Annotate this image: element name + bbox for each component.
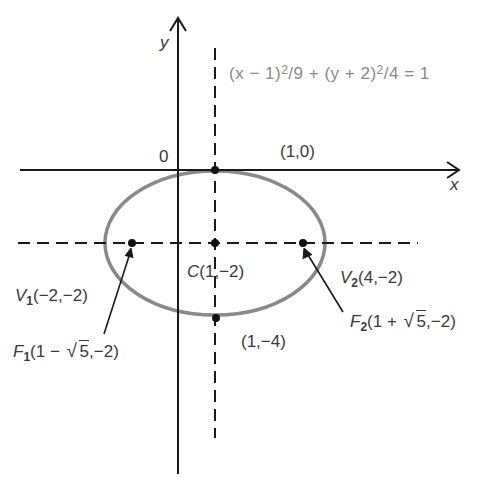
- point-bottom-vertex: [212, 314, 220, 322]
- v2-subscript: 2: [351, 276, 358, 290]
- point-top-vertex: [211, 166, 219, 174]
- sqrt-icon: √5: [67, 343, 89, 360]
- f2-radicand: 5: [416, 310, 426, 331]
- center-coords: (1,−2): [199, 262, 244, 281]
- center-prefix: C: [187, 262, 199, 281]
- equation-part-1: (x − 1): [229, 64, 281, 83]
- y-axis-label: y: [160, 34, 169, 51]
- label-focus-1: F1(1 − √5,−2): [13, 343, 119, 360]
- label-focus-2: F2(1 + √5,−2): [350, 313, 456, 330]
- f2-pre: (1 +: [367, 312, 402, 331]
- leader-arrow-f2-icon: [303, 248, 312, 259]
- label-top-vertex: (1,0): [280, 143, 315, 160]
- equation-exponent-1: 2: [281, 63, 288, 77]
- f2-prefix: F: [350, 312, 360, 331]
- x-axis-label: x: [450, 176, 459, 193]
- f1-prefix: F: [13, 342, 23, 361]
- label-bottom-vertex: (1,−4): [241, 333, 286, 350]
- sqrt-icon: √5: [404, 313, 426, 330]
- leader-arrow-f1-icon: [125, 248, 133, 258]
- origin-label: 0: [159, 148, 168, 165]
- equation-part-2: /9 + (y + 2): [288, 64, 376, 83]
- equation-exponent-2: 2: [377, 63, 384, 77]
- point-focus-1: [128, 239, 136, 247]
- f1-pre: (1 −: [30, 342, 65, 361]
- f1-subscript: 1: [23, 350, 30, 364]
- ellipse-diagram: y x 0 (x − 1)2/9 + (y + 2)2/4 = 1 (1,0) …: [0, 0, 502, 484]
- f1-post: ,−2): [89, 342, 119, 361]
- equation-part-3: /4 = 1: [384, 64, 430, 83]
- label-center: C(1,−2): [187, 263, 244, 280]
- v1-prefix: V: [15, 286, 26, 305]
- v2-coords: (4,−2): [358, 268, 403, 287]
- v2-prefix: V: [340, 268, 351, 287]
- f1-radicand: 5: [79, 340, 89, 361]
- v1-coords: (−2,−2): [33, 286, 88, 305]
- point-focus-2: [299, 239, 307, 247]
- label-vertex-1: V1(−2,−2): [15, 287, 88, 304]
- v1-subscript: 1: [26, 294, 33, 308]
- label-vertex-2: V2(4,−2): [340, 269, 403, 286]
- point-center: [211, 239, 219, 247]
- ellipse-equation: (x − 1)2/9 + (y + 2)2/4 = 1: [229, 65, 430, 82]
- f2-subscript: 2: [360, 320, 367, 334]
- f2-post: ,−2): [426, 312, 456, 331]
